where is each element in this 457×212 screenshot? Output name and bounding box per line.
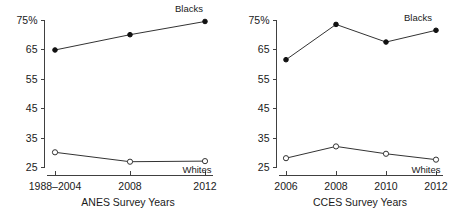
anes-y-tick-label: 55 xyxy=(26,73,38,85)
cces-series-label-blacks: Blacks xyxy=(404,12,432,23)
cces-y-tick-labels: 253545556575% xyxy=(248,14,269,173)
cces-point-whites-2 xyxy=(383,151,388,156)
anes-y-tick-label: 65 xyxy=(26,43,38,55)
anes-y-tick-label: 45 xyxy=(26,102,38,114)
anes-y-tick-label: 75% xyxy=(16,14,37,26)
anes-y-axis xyxy=(41,20,45,168)
cces-y-tick-label: 45 xyxy=(258,102,270,114)
anes-x-tick-label: 2012 xyxy=(193,180,217,192)
cces-y-tick-label: 25 xyxy=(258,161,270,173)
anes-plot-svg: 253545556575% 1988–200420082012 BlacksWh… xyxy=(0,0,228,212)
cces-point-blacks-1 xyxy=(334,22,339,27)
cces-point-blacks-3 xyxy=(434,28,439,33)
anes-y-tick-label: 35 xyxy=(26,132,38,144)
anes-point-blacks-1 xyxy=(128,32,133,37)
anes-y-tick-label: 25 xyxy=(26,161,38,173)
cces-y-axis xyxy=(273,20,277,168)
anes-x-axis-title: ANES Survey Years xyxy=(81,196,174,208)
anes-y-tick-labels: 253545556575% xyxy=(16,14,37,173)
cces-series-line-blacks xyxy=(286,24,436,59)
cces-data-series xyxy=(283,22,438,162)
anes-data-series xyxy=(52,19,207,164)
cces-plot-svg: 253545556575% 2006200820102012 BlacksWhi… xyxy=(228,0,457,212)
cces-x-tick-label: 2010 xyxy=(374,180,398,192)
anes-point-whites-1 xyxy=(127,159,132,164)
cces-point-whites-1 xyxy=(333,144,338,149)
cces-point-blacks-2 xyxy=(384,40,389,45)
anes-series-label-blacks: Blacks xyxy=(175,3,203,14)
chart-panel-anes: 253545556575% 1988–200420082012 BlacksWh… xyxy=(0,0,228,212)
cces-x-tick-labels: 2006200820102012 xyxy=(274,180,448,192)
cces-x-tick-label: 2006 xyxy=(274,180,298,192)
anes-x-tick-label: 2008 xyxy=(118,180,142,192)
cces-x-axis-title: CCES Survey Years xyxy=(313,196,407,208)
anes-series-label-whites: Whites xyxy=(182,164,211,175)
anes-point-whites-2 xyxy=(202,159,207,164)
chart-panel-cces: 253545556575% 2006200820102012 BlacksWhi… xyxy=(228,0,457,212)
cces-series-line-whites xyxy=(286,146,436,159)
anes-x-tick-labels: 1988–200420082012 xyxy=(29,180,217,192)
cces-y-tick-label: 35 xyxy=(258,132,270,144)
cces-point-whites-0 xyxy=(283,156,288,161)
cces-y-tick-marks xyxy=(273,21,277,168)
cces-y-tick-label: 75% xyxy=(248,14,269,26)
cces-x-tick-label: 2008 xyxy=(324,180,348,192)
anes-series-labels: BlacksWhites xyxy=(175,3,212,175)
cces-point-blacks-0 xyxy=(284,57,289,62)
cces-point-whites-3 xyxy=(433,157,438,162)
anes-y-tick-marks xyxy=(41,21,45,168)
cces-x-tick-label: 2012 xyxy=(424,180,448,192)
figure-two-panel-line-charts: 253545556575% 1988–200420082012 BlacksWh… xyxy=(0,0,457,212)
cces-series-label-whites: Whites xyxy=(411,164,440,175)
anes-point-whites-0 xyxy=(52,150,57,155)
cces-y-tick-label: 55 xyxy=(258,73,270,85)
anes-point-blacks-2 xyxy=(203,19,208,24)
anes-point-blacks-0 xyxy=(53,48,58,53)
anes-x-tick-label: 1988–2004 xyxy=(29,180,82,192)
cces-y-tick-label: 65 xyxy=(258,43,270,55)
